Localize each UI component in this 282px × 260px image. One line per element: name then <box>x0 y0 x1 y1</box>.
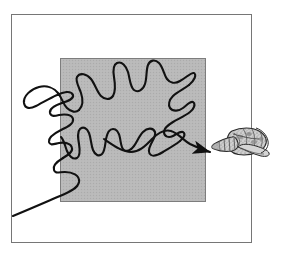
figure-canvas <box>0 0 282 260</box>
figure-root: Random search path of a predator converg… <box>0 0 282 260</box>
